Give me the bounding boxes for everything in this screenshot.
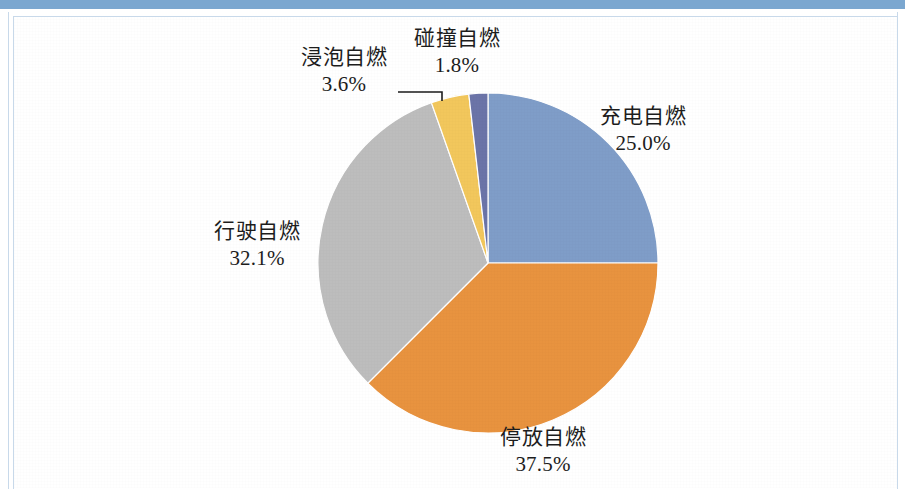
pie-label-collision-name: 碰撞自燃: [414, 25, 500, 52]
pie-label-charging-name: 充电自燃: [600, 103, 686, 130]
pie-label-parked-name: 停放自燃: [500, 424, 586, 451]
pie-label-parked: 停放自燃 37.5%: [500, 424, 586, 478]
leader-line-path: [398, 92, 442, 101]
figure-page: 充电自燃 25.0%停放自燃 37.5%行驶自燃 32.1%浸泡自燃 3.6%碰…: [0, 0, 905, 489]
pie-label-driving-name: 行驶自燃: [214, 218, 300, 245]
pie-label-collision-percent: 1.8%: [414, 52, 500, 79]
pie-label-charging: 充电自燃 25.0%: [600, 103, 686, 157]
soaking-leader-line: [398, 92, 442, 101]
pie-label-collision: 碰撞自燃 1.8%: [414, 25, 500, 79]
pie-label-soaking: 浸泡自燃 3.6%: [301, 44, 387, 98]
pie-label-driving-percent: 32.1%: [214, 245, 300, 272]
pie-label-parked-percent: 37.5%: [500, 451, 586, 478]
pie-label-driving: 行驶自燃 32.1%: [214, 218, 300, 272]
pie-label-soaking-percent: 3.6%: [301, 71, 387, 98]
pie-label-charging-percent: 25.0%: [600, 130, 686, 157]
pie-label-soaking-name: 浸泡自燃: [301, 44, 387, 71]
